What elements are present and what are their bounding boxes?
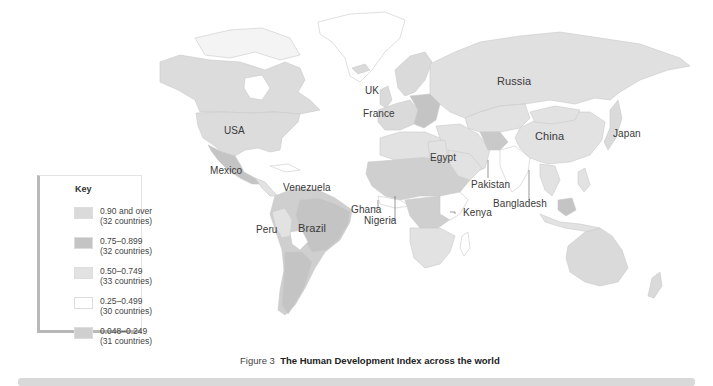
label-egypt: Egypt [430, 152, 456, 163]
label-venezuela: Venezuela [283, 182, 331, 193]
region-russia [430, 32, 690, 118]
legend-range: 0.048–0.249 [100, 326, 147, 336]
caption-prefix: Figure 3 [240, 355, 275, 366]
legend-count: (31 countries) [100, 336, 152, 346]
region-se-asia [540, 164, 560, 196]
legend-range: 0.90 and over [100, 206, 152, 216]
legend-swatch [74, 327, 93, 339]
region-central-america [255, 178, 278, 196]
legend-title: Key [75, 184, 92, 194]
label-pakistan: Pakistan [471, 179, 510, 190]
label-china: China [535, 130, 564, 142]
label-kenya: Kenya [463, 207, 492, 218]
region-japan [604, 100, 622, 150]
region-borneo [558, 198, 576, 216]
legend-swatch [74, 267, 93, 279]
label-uk: UK [365, 85, 379, 96]
label-usa: USA [224, 125, 245, 136]
region-philippines [578, 168, 590, 192]
label-nigeria: Nigeria [364, 215, 396, 226]
footer-divider [18, 378, 695, 386]
region-southern-africa [410, 228, 455, 268]
label-japan: Japan [613, 128, 641, 139]
legend-swatch [74, 207, 93, 219]
legend-count: (32 countries) [100, 246, 152, 256]
region-indonesia [540, 214, 600, 232]
legend-range: 0.50–0.749 [100, 266, 143, 276]
legend-item-low: 0.25–0.499(30 countries) [74, 297, 164, 321]
legend-count: (33 countries) [100, 276, 152, 286]
legend-item-very-low: 0.048–0.249(31 countries) [74, 327, 164, 351]
legend-count: (32 countries) [100, 216, 152, 226]
region-uk [380, 86, 392, 108]
map-legend: Key 0.90 and over(32 countries) 0.75–0.8… [37, 175, 142, 333]
label-peru: Peru [256, 224, 278, 235]
legend-item-medium: 0.50–0.749(33 countries) [74, 267, 164, 291]
label-ghana: Ghana [351, 204, 382, 215]
figure-caption: Figure 3 The Human Development Index acr… [240, 355, 500, 366]
label-france: France [363, 108, 395, 119]
legend-item-high: 0.75–0.899(32 countries) [74, 237, 164, 261]
region-caribbean [270, 164, 300, 172]
caption-title: The Human Development Index across the w… [280, 355, 500, 366]
label-mexico: Mexico [210, 165, 242, 176]
legend-range: 0.25–0.499 [100, 296, 143, 306]
region-australia [566, 228, 628, 286]
legend-swatch [74, 237, 93, 249]
region-madagascar [460, 232, 470, 256]
label-bangladesh: Bangladesh [493, 198, 547, 209]
region-canada [160, 55, 320, 114]
legend-item-very-high: 0.90 and over(32 countries) [74, 207, 164, 231]
legend-swatch [74, 297, 93, 309]
label-brazil: Brazil [298, 222, 326, 234]
region-scandinavia [395, 52, 432, 96]
legend-count: (30 countries) [100, 306, 152, 316]
legend-range: 0.75–0.899 [100, 236, 143, 246]
label-russia: Russia [497, 75, 531, 87]
region-arctic-islands [195, 28, 300, 60]
region-new-zealand [648, 272, 662, 298]
